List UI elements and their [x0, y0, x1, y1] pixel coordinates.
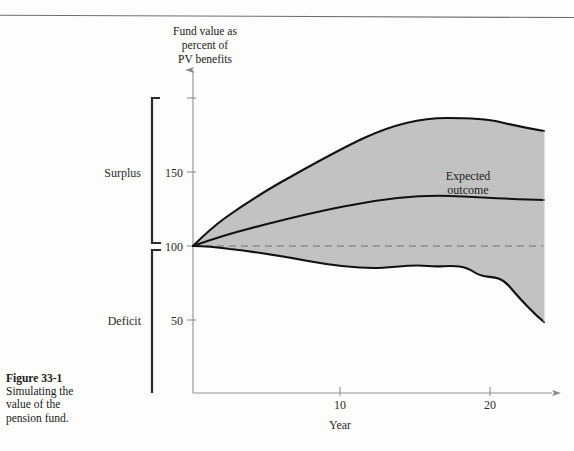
figure-caption-line-3: pension fund. [6, 412, 102, 425]
y-axis-title-line-2: percent of [182, 39, 228, 52]
y-tick-label-100: 100 [165, 240, 183, 254]
y-axis-ticks [187, 98, 196, 320]
surplus-bracket [152, 98, 161, 243]
figure-page: Fund value as percent of PV benefits 150… [0, 0, 574, 451]
bracket-label-deficit: Deficit [108, 314, 142, 328]
y-axis-title-line-1: Fund value as [173, 25, 237, 37]
annotation-expected-outcome-line-2: outcome [447, 183, 488, 197]
figure-caption-line-1: Simulating the [6, 385, 102, 398]
x-axis-title: Year [329, 418, 351, 432]
figure-caption: Figure 33-1 Simulating the value of the … [6, 372, 102, 425]
deficit-bracket [152, 250, 161, 393]
y-axis-title-line-3: PV benefits [178, 53, 232, 65]
bracket-label-surplus: Surplus [104, 166, 141, 180]
annotation-expected-outcome-line-1: Expected [446, 169, 491, 183]
x-tick-label-10: 10 [334, 398, 346, 412]
figure-caption-line-2: value of the [6, 398, 102, 411]
y-tick-label-150: 150 [165, 166, 183, 180]
y-tick-label-50: 50 [171, 314, 183, 328]
figure-caption-number: Figure 33-1 [6, 372, 102, 385]
x-tick-label-20: 20 [484, 398, 496, 412]
x-axis-ticks [340, 387, 490, 396]
outcome-band-area [193, 118, 544, 322]
